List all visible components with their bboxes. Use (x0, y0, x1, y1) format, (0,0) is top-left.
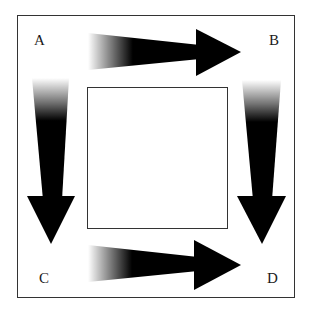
node-label-a: A (34, 33, 45, 48)
arrow-a-to-b (88, 29, 241, 76)
arrow-a-to-c (27, 78, 75, 244)
node-label-d: D (267, 271, 278, 286)
node-label-b: B (269, 33, 279, 48)
inner-square (88, 88, 228, 229)
arrow-b-to-d (237, 80, 286, 244)
node-label-c: C (39, 271, 49, 286)
commutative-square-diagram (0, 0, 309, 313)
arrow-c-to-d (88, 240, 241, 290)
